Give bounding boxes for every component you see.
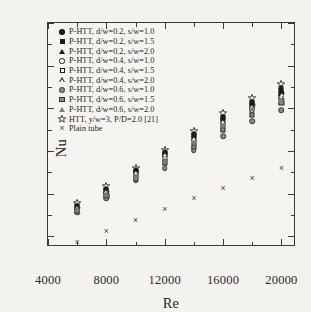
x-axis-major-tick — [106, 239, 107, 245]
x-tick-label: 4000 — [18, 273, 78, 288]
y-axis-major-tick-right — [288, 194, 294, 195]
y-axis-major-tick — [48, 236, 54, 237]
y-axis-title: Nu — [53, 139, 70, 157]
y-axis-major-tick-right — [288, 108, 294, 109]
y-axis-major-tick-right — [288, 236, 294, 237]
data-point — [278, 97, 284, 102]
legend-item: P-HTT, d/w=0.2, s/w=1.5 — [55, 37, 158, 47]
x-tick-label: 20000 — [251, 273, 311, 288]
y-axis-minor-tick — [48, 44, 52, 45]
data-point — [132, 164, 140, 172]
legend-marker-icon — [55, 115, 69, 123]
legend-item-label: P-HTT, d/w=0.2, s/w=1.5 — [69, 37, 154, 46]
legend-item-label: P-HTT, d/w=0.6, s/w=2.0 — [69, 105, 154, 114]
data-point — [249, 118, 255, 124]
x-axis-minor-tick — [77, 242, 78, 246]
data-point: × — [220, 185, 227, 192]
legend-item: P-HTT, d/w=0.4, s/w=2.0 — [55, 75, 158, 85]
y-axis-minor-tick-right — [291, 172, 295, 173]
data-point — [220, 133, 226, 139]
data-point: × — [161, 205, 168, 212]
x-tick-label: 8000 — [76, 273, 136, 288]
y-axis-minor-tick — [48, 215, 52, 216]
legend-item: P-HTT, d/w=0.4, s/w=1.0 — [55, 56, 158, 66]
legend-item: P-HTT, d/w=0.6, s/w=2.0 — [55, 105, 158, 115]
data-point — [133, 173, 139, 178]
legend-item: P-HTT, d/w=0.6, s/w=1.5 — [55, 95, 158, 105]
y-axis-minor-tick-right — [291, 215, 295, 216]
data-point: × — [103, 228, 110, 235]
data-point — [220, 123, 226, 128]
data-point — [190, 127, 198, 135]
data-point — [103, 191, 109, 196]
legend-item-label: P-HTT, d/w=0.4, s/w=1.5 — [69, 66, 154, 75]
data-point — [74, 207, 80, 212]
y-axis-major-tick — [48, 194, 54, 195]
legend-item: P-HTT, d/w=0.2, s/w=1.0 — [55, 27, 158, 37]
data-point — [248, 94, 256, 102]
data-point: × — [278, 165, 285, 172]
legend-marker-icon — [55, 68, 69, 73]
data-point — [102, 182, 110, 190]
y-axis-minor-tick-right — [291, 44, 295, 45]
x-axis-minor-tick — [252, 242, 253, 246]
legend-item-label: P-HTT, d/w=0.6, s/w=1.5 — [69, 95, 154, 104]
x-axis-major-tick — [48, 239, 49, 245]
data-point — [219, 109, 227, 117]
legend-item-label: P-HTT, d/w=0.6, s/w=1.0 — [69, 85, 154, 94]
legend-marker-icon — [55, 58, 69, 63]
legend-item: P-HTT, d/w=0.4, s/w=1.5 — [55, 66, 158, 76]
legend-marker-icon — [55, 107, 69, 112]
y-axis-minor-tick — [48, 87, 52, 88]
legend-item: P-HTT, d/w=0.6, s/w=1.0 — [55, 85, 158, 95]
legend-marker-icon — [55, 39, 69, 44]
legend-item-label: P-HTT, d/w=0.2, s/w=1.0 — [69, 27, 154, 36]
y-axis-minor-tick-right — [291, 130, 295, 131]
x-axis-minor-tick-top — [136, 23, 137, 27]
y-axis-minor-tick — [48, 172, 52, 173]
x-axis-minor-tick-top — [252, 23, 253, 27]
x-axis-minor-tick — [194, 242, 195, 246]
data-point — [161, 146, 169, 154]
legend-marker-icon: × — [55, 125, 69, 132]
data-point: × — [249, 174, 256, 181]
data-point: × — [132, 217, 139, 224]
y-axis-major-tick-right — [288, 23, 294, 24]
y-axis-minor-tick — [48, 130, 52, 131]
y-axis-major-tick-right — [288, 151, 294, 152]
legend-item-label: Plain tube — [69, 124, 102, 133]
x-axis-title: Re — [48, 295, 294, 312]
x-axis-minor-tick-top — [77, 23, 78, 27]
y-axis-major-tick — [48, 66, 54, 67]
legend-marker-icon — [55, 49, 69, 54]
x-axis-major-tick — [281, 239, 282, 245]
data-point — [191, 140, 197, 145]
legend-item-label: P-HTT, d/w=0.2, s/w=2.0 — [69, 47, 154, 56]
legend-marker-icon — [55, 77, 69, 83]
legend-marker-icon — [55, 29, 69, 34]
x-tick-label: 16000 — [193, 273, 253, 288]
legend-item-label: P-HTT, d/w=0.4, s/w=1.0 — [69, 56, 154, 65]
x-axis-minor-tick — [136, 242, 137, 246]
x-axis-major-tick-top — [281, 23, 282, 29]
y-axis-minor-tick-right — [291, 87, 295, 88]
data-point — [249, 107, 255, 112]
legend-item-label: HTT, y/w=3, P/D=2.0 [21] — [69, 115, 158, 124]
x-axis-major-tick — [165, 239, 166, 245]
legend-item: ×Plain tube — [55, 124, 158, 134]
data-point — [277, 80, 285, 88]
data-point — [279, 108, 285, 114]
data-point — [250, 112, 255, 117]
x-axis-major-tick-top — [165, 23, 166, 29]
data-point — [162, 157, 168, 162]
x-axis-minor-tick-top — [194, 23, 195, 27]
legend-item-label: P-HTT, d/w=0.4, s/w=2.0 — [69, 76, 154, 85]
legend-marker-icon — [55, 97, 69, 102]
y-axis-major-tick — [48, 108, 54, 109]
data-point — [73, 199, 81, 207]
data-point — [162, 165, 168, 171]
chart-legend: P-HTT, d/w=0.2, s/w=1.0P-HTT, d/w=0.2, s… — [55, 27, 158, 134]
x-axis-major-tick-top — [48, 23, 49, 29]
plot-frame: ×××××××× 20406080100120 4000800012000160… — [47, 22, 295, 246]
